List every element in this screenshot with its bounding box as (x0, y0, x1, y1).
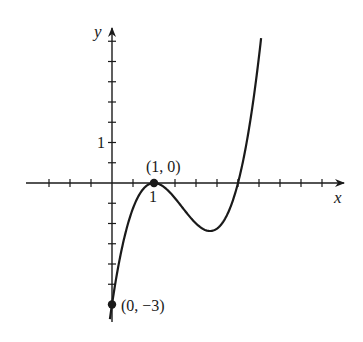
x-axis-label: x (333, 188, 342, 207)
point-marker (108, 300, 116, 308)
y-axis: 1 (97, 28, 116, 322)
function-graph: 1 1 (1, 0)(0, −3) x y (0, 0, 363, 342)
y-tick-label: 1 (97, 134, 105, 151)
x-tick-label: 1 (149, 188, 157, 205)
y-axis-label: y (92, 22, 102, 41)
point-marker (150, 179, 158, 187)
point-label: (0, −3) (121, 297, 165, 315)
x-axis: 1 (26, 179, 344, 205)
function-curve (110, 38, 261, 319)
labeled-points: (1, 0)(0, −3) (108, 158, 181, 315)
point-label: (1, 0) (146, 158, 181, 176)
